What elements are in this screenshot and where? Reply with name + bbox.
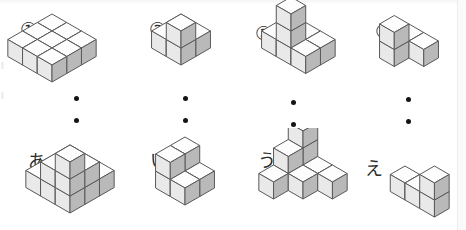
figure-4-separator-dot-2 — [406, 119, 411, 124]
figure-2-separator-dot-2 — [183, 118, 188, 123]
figure-e-cube-stack — [335, 146, 466, 230]
figure-4-cube-stack — [339, 4, 466, 144]
figure-1-separator-dot-1 — [74, 96, 79, 101]
figure-4-separator-dot-1 — [406, 97, 411, 102]
figure-3-separator-dot-2 — [291, 122, 296, 127]
figure-1-separator-dot-2 — [74, 118, 79, 123]
figure-3-separator-dot-1 — [291, 100, 296, 105]
exercise-page: ①②③④あいうえ — [0, 0, 466, 230]
figure-2-separator-dot-1 — [183, 96, 188, 101]
